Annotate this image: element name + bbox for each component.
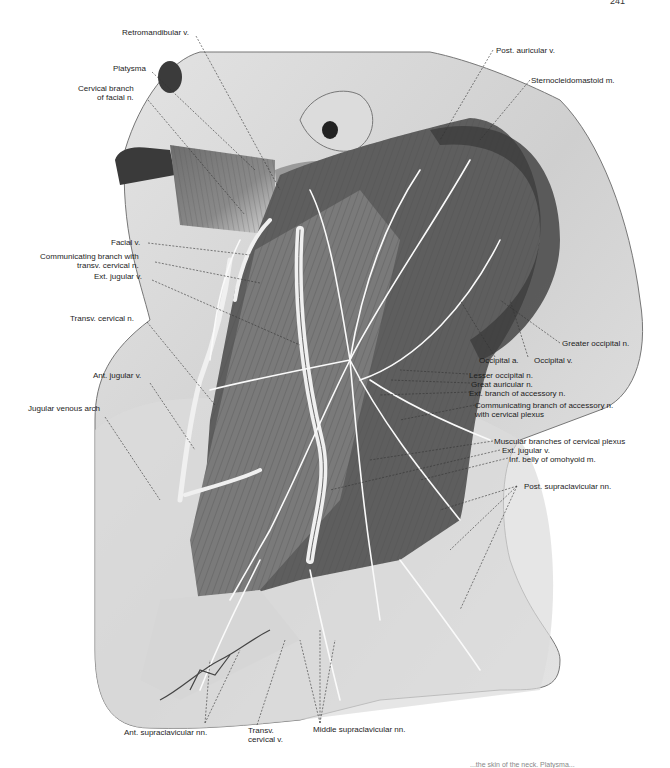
label-great-auricular-n: Great auricular n. <box>471 380 533 389</box>
label-ext-jugular-v-left: Ext. jugular v. <box>94 272 142 281</box>
label-transv-cervical-v: Transv. cervical v. <box>248 726 283 744</box>
label-post-supraclavicular-nn: Post. supraclavicular nn. <box>524 482 611 491</box>
label-ext-branch-accessory-n: Ext. branch of accessory n. <box>469 389 566 398</box>
label-ext-jugular-v-right: Ext. jugular v. <box>502 446 550 455</box>
neck-dissection-illustration <box>0 0 670 768</box>
label-muscular-branches: Muscular branches of cervical plexus <box>494 437 625 446</box>
label-platysma: Platysma <box>113 64 146 73</box>
label-post-auricular-v: Post. auricular v. <box>496 46 555 55</box>
label-lesser-occipital-n: Lesser occipital n. <box>469 371 533 380</box>
label-occipital-v: Occipital v. <box>534 356 573 365</box>
label-communicating-branch-accessory: Communicating branch of accessory n. wit… <box>475 401 613 419</box>
label-cervical-branch-facial-n: Cervical branch of facial n. <box>78 84 134 102</box>
label-occipital-a: Occipital a. <box>479 356 519 365</box>
label-facial-v: Facial v. <box>111 238 140 247</box>
label-transv-cervical-n: Transv. cervical n. <box>70 314 134 323</box>
label-ant-jugular-v: Ant. jugular v. <box>93 371 141 380</box>
label-ant-supraclavicular-nn: Ant. supraclavicular nn. <box>124 728 207 737</box>
page-caption-fragment: ...the skin of the neck. Platysma... <box>470 761 575 768</box>
label-middle-supraclavicular-nn: Middle supraclavicular nn. <box>313 725 406 734</box>
label-inf-belly-omohyoid: Inf. belly of omohyoid m. <box>509 455 596 464</box>
label-retromandibular-v: Retromandibular v. <box>122 28 189 37</box>
label-greater-occipital-n: Greater occipital n. <box>562 339 629 348</box>
label-communicating-branch-transv: Communicating branch with transv. cervic… <box>40 252 139 270</box>
label-jugular-venous-arch: Jugular venous arch <box>28 404 100 413</box>
label-sternocleidomastoid-m: Sternocleidomastoid m. <box>531 76 615 85</box>
